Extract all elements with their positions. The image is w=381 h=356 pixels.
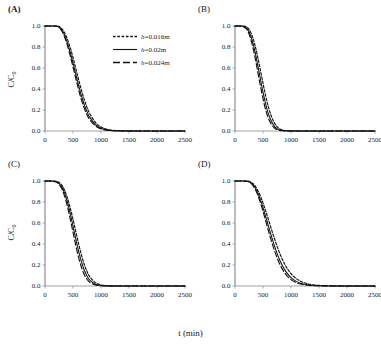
svg-text:2000: 2000 [150,136,165,144]
svg-text:0.4: 0.4 [222,240,231,248]
panel-D: (D) 0.00.20.40.60.81.0050010001500200025… [190,155,380,315]
panel-A: (A) 0.00.20.40.60.81.0050010001500200025… [0,0,190,160]
legend-item-h-0024: h=0.024m [112,56,188,69]
svg-text:0: 0 [43,136,47,144]
svg-text:2000: 2000 [340,291,355,299]
panel-C: (C) 0.00.20.40.60.81.0050010001500200025… [0,155,190,315]
svg-text:0: 0 [233,291,237,299]
legend-item-h-0016: h=0.016m [112,30,188,43]
legend-line-swatch-solid [112,45,138,54]
svg-text:0.4: 0.4 [222,85,231,93]
plot-area-A: 0.00.20.40.60.81.005001000150020002500 [0,0,190,160]
svg-text:1.0: 1.0 [32,22,41,30]
y-axis-label-A: C/C0 [7,60,16,100]
svg-text:1500: 1500 [312,291,327,299]
svg-text:1000: 1000 [284,291,299,299]
svg-text:0.2: 0.2 [32,261,41,269]
plot-area-D: 0.00.20.40.60.81.005001000150020002500 [190,155,380,315]
svg-text:0.6: 0.6 [222,219,231,227]
legend-label: h=0.016m [138,33,170,41]
panel-B: (B) 0.00.20.40.60.81.0050010001500200025… [190,0,380,160]
svg-text:0.4: 0.4 [32,85,41,93]
svg-text:1500: 1500 [122,291,137,299]
svg-text:0.0: 0.0 [222,127,231,135]
legend-label: h=0.02m [138,46,166,54]
figure-breakthrough-curves: (A) 0.00.20.40.60.81.0050010001500200025… [0,0,381,356]
svg-text:0.4: 0.4 [32,240,41,248]
svg-text:0.0: 0.0 [32,282,41,290]
x-axis-label: t (min) [0,328,381,338]
svg-text:0.8: 0.8 [222,198,231,206]
y-axis-label-C: C/C0 [7,213,16,253]
svg-text:2000: 2000 [340,136,355,144]
svg-text:0.6: 0.6 [32,64,41,72]
plot-area-B: 0.00.20.40.60.81.005001000150020002500 [190,0,380,160]
legend-line-swatch-dashed [112,58,138,67]
svg-text:1.0: 1.0 [222,22,231,30]
svg-text:1.0: 1.0 [222,177,231,185]
svg-text:0.6: 0.6 [32,219,41,227]
svg-text:1000: 1000 [284,136,299,144]
svg-text:500: 500 [68,136,79,144]
svg-text:1500: 1500 [122,136,137,144]
svg-text:0.8: 0.8 [222,43,231,51]
svg-text:0.2: 0.2 [222,106,231,114]
legend-item-h-002: h=0.02m [112,43,188,56]
svg-text:1500: 1500 [312,136,327,144]
svg-text:1.0: 1.0 [32,177,41,185]
svg-text:0.2: 0.2 [32,106,41,114]
svg-text:2500: 2500 [368,136,381,144]
svg-text:0.0: 0.0 [32,127,41,135]
svg-text:2000: 2000 [150,291,165,299]
svg-text:0.2: 0.2 [222,261,231,269]
svg-text:0.0: 0.0 [222,282,231,290]
svg-text:0.8: 0.8 [32,43,41,51]
svg-text:2500: 2500 [368,291,381,299]
svg-text:500: 500 [258,291,269,299]
svg-text:500: 500 [258,136,269,144]
svg-text:0.6: 0.6 [222,64,231,72]
legend-line-swatch-dotted [112,32,138,41]
legend-label: h=0.024m [138,59,170,67]
svg-text:0.8: 0.8 [32,198,41,206]
plot-area-C: 0.00.20.40.60.81.005001000150020002500 [0,155,190,315]
svg-text:500: 500 [68,291,79,299]
svg-text:0: 0 [43,291,47,299]
svg-text:1000: 1000 [94,291,109,299]
svg-text:0: 0 [233,136,237,144]
svg-text:1000: 1000 [94,136,109,144]
legend: h=0.016mh=0.02mh=0.024m [112,30,188,69]
